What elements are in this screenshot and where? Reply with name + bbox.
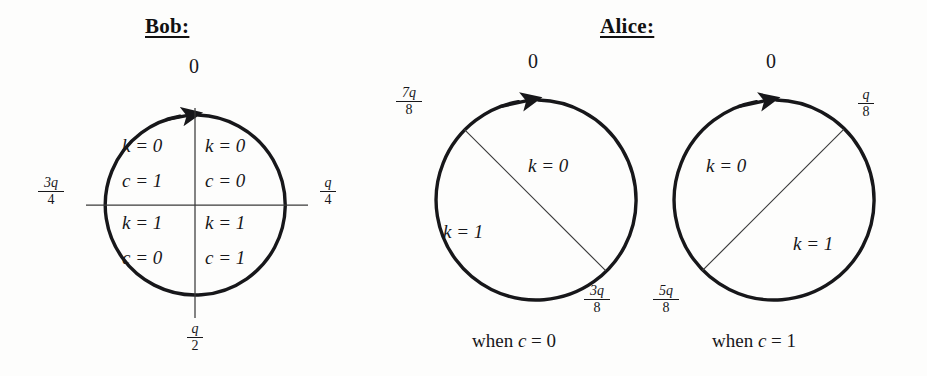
alice-c0-chord (464, 129, 605, 270)
fraction-denominator: 4 (320, 192, 336, 207)
caption-suffix: = 0 (526, 330, 556, 351)
caption-prefix: when (472, 330, 518, 351)
caption-suffix: = 1 (766, 330, 796, 351)
alice-c1-region-upper-left-k: k = 0 (706, 155, 746, 177)
fraction-numerator: q (858, 88, 874, 104)
fraction-numerator: q (320, 176, 336, 192)
bob-quadrant-top-left-k: k = 0 (122, 135, 162, 157)
bob-quadrant-top-right-c: c = 0 (205, 170, 245, 192)
fraction-numerator: q (187, 322, 203, 338)
bob-quadrant-bottom-right-k: k = 1 (205, 212, 245, 234)
alice-c0-region-lower-left-k: k = 1 (443, 221, 483, 243)
alice-c1-label-q-over-eight: q 8 (858, 88, 874, 119)
fraction-numerator: 3q (38, 176, 64, 192)
fraction-denominator: 2 (187, 338, 203, 353)
alice-c1-region-lower-right-k: k = 1 (793, 233, 833, 255)
bob-label-three-q-over-four: 3q 4 (38, 176, 64, 207)
alice-c0-circle-outline (436, 100, 636, 300)
fraction-numerator: 3q (584, 284, 610, 300)
caption-prefix: when (712, 330, 758, 351)
alice-c0-label-zero: 0 (528, 50, 538, 73)
bob-quadrant-top-right-k: k = 0 (205, 135, 245, 157)
alice-c1-caption: when c = 1 (712, 330, 796, 352)
bob-quadrant-bottom-left-c: c = 0 (122, 247, 162, 269)
bob-direction-arrow (166, 115, 189, 119)
bob-label-zero: 0 (189, 55, 199, 78)
bob-quadrant-bottom-right-c: c = 1 (205, 247, 245, 269)
fraction-denominator: 8 (584, 300, 610, 315)
alice-c0-label-three-q-over-eight: 3q 8 (584, 284, 610, 315)
diagram-canvas: Bob: Alice: 0 3q 4 q 4 (0, 0, 927, 376)
fraction-denominator: 8 (858, 104, 874, 119)
fraction-numerator: 7q (396, 86, 422, 102)
bob-label-q-over-two: q 2 (187, 322, 203, 353)
bob-label-q-over-four: q 4 (320, 176, 336, 207)
alice-c0-label-seven-q-over-eight: 7q 8 (396, 86, 422, 117)
bob-quadrant-bottom-left-k: k = 1 (122, 212, 162, 234)
alice-c1-label-zero: 0 (766, 50, 776, 73)
fraction-denominator: 8 (396, 102, 422, 117)
bob-quadrant-top-left-c: c = 1 (122, 170, 162, 192)
fraction-denominator: 4 (38, 192, 64, 207)
fraction-numerator: 5q (653, 284, 679, 300)
alice-c1-label-five-q-over-eight: 5q 8 (653, 284, 679, 315)
fraction-denominator: 8 (653, 300, 679, 315)
alice-c0-region-upper-right-k: k = 0 (528, 155, 568, 177)
alice-c1-circle-outline (674, 100, 874, 300)
alice-c0-caption: when c = 0 (472, 330, 556, 352)
